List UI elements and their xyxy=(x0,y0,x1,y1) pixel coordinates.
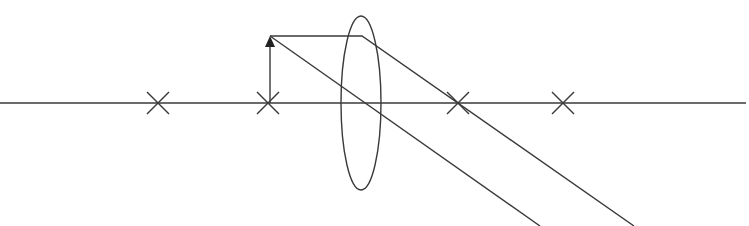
lens-ray-diagram xyxy=(0,0,749,226)
rays xyxy=(270,36,634,226)
center-ray xyxy=(270,36,540,226)
parallel-ray xyxy=(270,36,634,226)
